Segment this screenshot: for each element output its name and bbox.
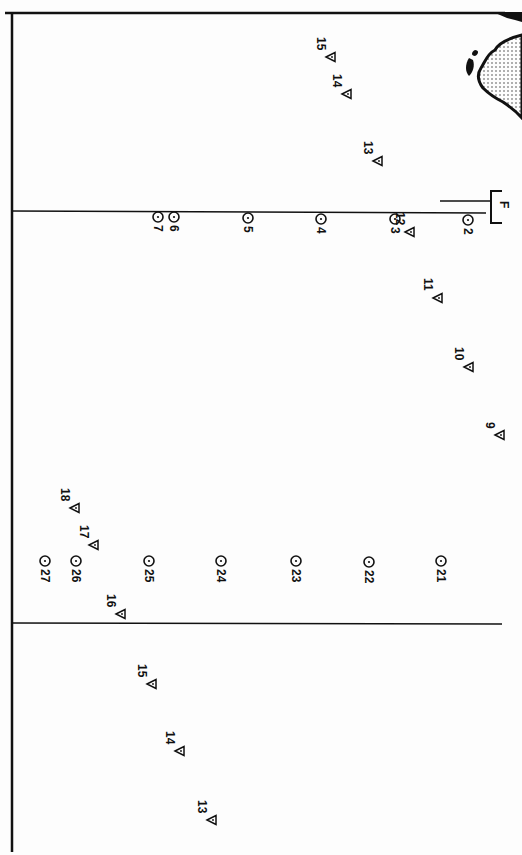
station-triangle-icon [325,51,337,63]
station-triangle-icon [88,539,100,551]
station-label: 15 [315,37,327,50]
station-label: 23 [290,569,302,582]
station-label: 21 [435,569,447,582]
station-label: 13 [362,141,374,154]
station-map: 7654322726252423222115141312111091817161… [0,0,522,855]
station-triangle-icon [404,226,416,238]
station-label: 18 [59,488,71,501]
station-circle-icon [461,213,475,227]
station-label: 22 [363,570,375,583]
station-label: 5 [242,226,254,233]
station-circle-icon [142,554,156,568]
station-circle-icon [69,554,83,568]
station-label: 15 [136,664,148,677]
station-label: 11 [422,278,434,291]
station-label: 27 [39,569,51,582]
station-triangle-icon [494,429,506,441]
station-triangle-icon [115,608,127,620]
station-label: 17 [78,525,90,538]
station-triangle-icon [432,292,444,304]
station-triangle-icon [69,502,81,514]
station-label: 13 [196,800,208,813]
station-label: 7 [152,225,164,232]
station-label: 6 [168,225,180,232]
station-label: 10 [453,347,465,360]
station-triangle-icon [463,361,475,373]
station-circle-icon [167,210,181,224]
station-triangle-icon [174,745,186,757]
station-circle-icon [241,211,255,225]
station-triangle-icon [206,814,218,826]
station-label: 25 [143,569,155,582]
station-label: 14 [164,731,176,744]
station-circle-icon [151,210,165,224]
station-label: 14 [331,74,343,87]
station-triangle-icon [372,155,384,167]
f-bracket-top [490,190,502,192]
station-label: 3 [389,227,401,234]
station-label: 2 [462,228,474,235]
station-triangle-icon [341,88,353,100]
station-label: 4 [315,227,327,234]
station-circle-icon [38,554,52,568]
coastline-shape [455,10,522,120]
station-label: 9 [484,422,496,429]
station-label: 16 [105,594,117,607]
station-circle-icon [214,554,228,568]
feature-label-f: F [498,201,510,208]
station-circle-icon [314,212,328,226]
station-label: 24 [215,569,227,582]
station-circle-icon [362,555,376,569]
f-bracket-vertical [490,190,492,224]
station-circle-icon [434,554,448,568]
station-label: 12 [394,212,406,225]
f-bracket-bottom [490,222,502,224]
station-triangle-icon [146,678,158,690]
station-label: 26 [70,569,82,582]
f-pointer-line [0,0,522,855]
station-circle-icon [289,554,303,568]
